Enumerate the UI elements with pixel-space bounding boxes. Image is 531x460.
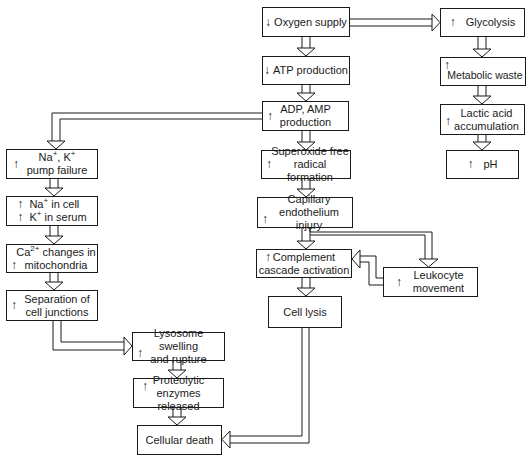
node-label: Glycolysis: [466, 16, 516, 29]
node-label: Leukocyte movement: [397, 269, 464, 295]
increase-arrow-icon: ↑: [267, 110, 273, 123]
node-calcium-changes: ↑ Ca2+ changes in mitochondria: [6, 244, 98, 273]
increase-arrow-icon: ↑: [450, 16, 456, 29]
increase-arrow-icon: ↑: [142, 380, 148, 393]
node-label: Lysosome swelling and rupture: [133, 327, 224, 366]
increase-arrow-icon: ↑: [11, 259, 17, 272]
node-metabolic-waste: ↑ Metabolic waste: [440, 57, 526, 86]
node-adp-amp-production: ↑ ADP, AMP production: [262, 101, 349, 131]
decrease-arrow-icon: ↓: [264, 64, 270, 77]
node-label: Capillary endothelium injury: [258, 193, 352, 232]
node-label: Lactic acid accumulation: [446, 107, 519, 133]
flowchart-canvas: ↓ Oxygen supply ↓ ATP production ↑ ADP, …: [0, 0, 531, 460]
increase-arrow-icon: ↑: [396, 276, 402, 289]
node-label: Na+, K+ pump failure: [17, 151, 88, 177]
decrease-arrow-icon: ↓: [265, 16, 271, 29]
node-leukocyte-movement: ↑ Leukocyte movement: [383, 267, 478, 297]
node-oxygen-supply: ↓ Oxygen supply: [262, 7, 350, 37]
node-lysosome-rupture: ↑ Lysosome swelling and rupture: [132, 332, 225, 361]
node-proteolytic-enzymes: ↑ Proteolytic enzymes released: [133, 378, 224, 408]
node-ph: ↑ pH: [446, 150, 519, 179]
node-atp-production: ↓ ATP production: [262, 56, 350, 85]
node-label: Separation of cell junctions: [14, 293, 89, 319]
increase-arrow-icon: ↑: [13, 158, 19, 171]
node-label: Ca2+ changes in mitochondria: [8, 246, 95, 272]
increase-arrow-icon: ↑: [444, 59, 450, 72]
node-separation-junctions: ↑ Separation of cell junctions: [6, 290, 98, 321]
node-label: Metabolic waste: [443, 61, 522, 82]
node-label: pH: [483, 158, 497, 171]
node-pump-failure: ↑ Na+, K+ pump failure: [6, 149, 98, 179]
node-complement-activation: ↑ Complement cascade activation: [256, 249, 352, 278]
node-label: ↑ Na+ in cell ↑ K+ in serum: [17, 198, 86, 224]
node-glycolysis: ↑ Glycolysis: [440, 8, 525, 37]
node-label: Cell lysis: [283, 306, 326, 319]
increase-arrow-icon: ↑: [445, 115, 451, 128]
node-cellular-death: Cellular death: [137, 425, 222, 455]
increase-arrow-icon: ↑: [137, 347, 143, 360]
node-ion-imbalance: ↑ Na+ in cell ↑ K+ in serum: [6, 196, 98, 226]
node-cell-lysis: Cell lysis: [268, 296, 342, 328]
node-lactic-acid: ↑ Lactic acid accumulation: [440, 104, 525, 135]
increase-arrow-icon: ↑: [265, 251, 271, 264]
increase-arrow-icon: ↑: [467, 158, 473, 171]
increase-arrow-icon: ↑: [17, 197, 23, 211]
increase-arrow-icon: ↑: [262, 213, 268, 226]
node-capillary-injury: ↑ Capillary endothelium injury: [257, 197, 353, 228]
increase-arrow-icon: ↑: [266, 158, 272, 171]
node-label: ADP, AMP production: [280, 103, 331, 129]
node-label: Oxygen supply: [274, 16, 347, 29]
increase-arrow-icon: ↑: [11, 299, 17, 312]
node-label: ATP production: [273, 64, 348, 77]
increase-arrow-icon: ↑: [17, 210, 23, 224]
node-label: Complement cascade activation: [259, 251, 350, 277]
node-label: Cellular death: [146, 434, 214, 447]
node-label: Superoxide free radical formation: [262, 145, 350, 184]
node-superoxide-formation: ↑ Superoxide free radical formation: [261, 150, 351, 179]
